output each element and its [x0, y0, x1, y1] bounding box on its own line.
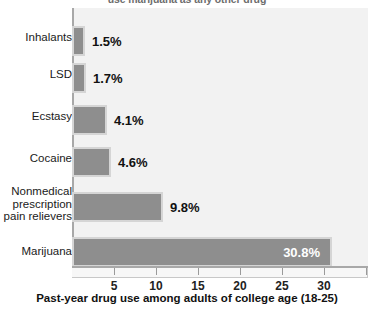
bar-nonmedical-prescription-pain-relievers [72, 192, 163, 222]
category-label-marijuana: Marijuana [0, 245, 72, 258]
bar-row: 4.1% [72, 105, 368, 135]
x-tick-label-10: 10 [149, 279, 162, 293]
bar-marijuana: 30.8% [72, 237, 332, 267]
category-label-nonmedical-prescription-pain-relievers: Nonmedical prescription pain relievers [0, 185, 72, 223]
bar-lsd [72, 63, 86, 93]
bar-value-cocaine: 4.6% [118, 155, 148, 170]
x-tick-label-30: 30 [317, 279, 330, 293]
x-tick-mark-15 [198, 268, 199, 275]
bar-row: 30.8% [72, 237, 368, 267]
bar-row: 9.8% [72, 192, 368, 222]
category-label-lsd: LSD [0, 68, 72, 81]
x-tick-label-5: 5 [111, 279, 118, 293]
bar-inhalants [72, 26, 85, 56]
x-tick-mark-25 [282, 268, 283, 275]
x-tick-mark-5 [114, 268, 115, 275]
x-tick-mark-20 [240, 268, 241, 275]
category-label-cocaine: Cocaine [0, 152, 72, 165]
bar-row: 1.7% [72, 63, 368, 93]
bar-value-marijuana: 30.8% [283, 245, 320, 260]
x-tick-label-15: 15 [191, 279, 204, 293]
bar-row: 4.6% [72, 147, 368, 177]
category-label-inhalants: Inhalants [0, 31, 72, 44]
bar-value-lsd: 1.7% [93, 71, 123, 86]
x-tick-mark-30 [324, 268, 325, 275]
x-axis-caption: Past-year drug use among adults of colle… [0, 292, 374, 304]
bar-cocaine [72, 147, 111, 177]
bar-chart: use marijuana as any other drug Inhalant… [0, 0, 374, 310]
category-label-ecstasy: Ecstasy [0, 110, 72, 123]
bar-ecstasy [72, 105, 107, 135]
x-tick-mark-end [366, 268, 367, 275]
bar-value-nonmedical-prescription-pain-relievers: 9.8% [170, 200, 200, 215]
bar-row: 1.5% [72, 26, 368, 56]
chart-title: use marijuana as any other drug [0, 0, 374, 5]
x-tick-mark-10 [156, 268, 157, 275]
bar-value-ecstasy: 4.1% [114, 113, 144, 128]
x-tick-label-20: 20 [233, 279, 246, 293]
bar-value-inhalants: 1.5% [92, 34, 122, 49]
x-tick-label-25: 25 [275, 279, 288, 293]
